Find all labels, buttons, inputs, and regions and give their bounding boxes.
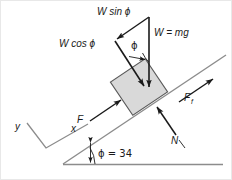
label-w-sin-phi: W sin ϕ bbox=[97, 6, 131, 17]
label-w-equals-mg: W = mg bbox=[154, 27, 189, 38]
label-incline-angle: ϕ = 34 bbox=[98, 148, 132, 159]
label-friction-force: F f bbox=[184, 92, 194, 105]
normal-force-vector bbox=[157, 107, 176, 135]
label-applied-force: F bbox=[77, 114, 84, 125]
w-sin-phi-vector bbox=[117, 17, 149, 39]
normal-force-leader bbox=[179, 140, 185, 148]
label-phi-vector-angle: ϕ bbox=[131, 40, 138, 51]
label-axis-y: y bbox=[14, 121, 21, 132]
block bbox=[110, 59, 167, 116]
label-axis-x: x bbox=[70, 123, 77, 134]
diagram-canvas: W sin ϕ W cos ϕ W = mg ϕ F F f N x y ϕ =… bbox=[1, 1, 232, 180]
label-w-cos-phi: W cos ϕ bbox=[59, 38, 96, 49]
applied-force-vector bbox=[90, 100, 121, 121]
label-normal-force: N bbox=[171, 135, 179, 146]
phi-angle-pointer bbox=[129, 57, 145, 60]
physics-diagram-incline: W sin ϕ W cos ϕ W = mg ϕ F F f N x y ϕ =… bbox=[0, 0, 232, 180]
coordinate-axes bbox=[27, 123, 88, 148]
label-friction-force-base: F bbox=[184, 92, 191, 103]
label-friction-force-subscript: f bbox=[191, 98, 194, 105]
